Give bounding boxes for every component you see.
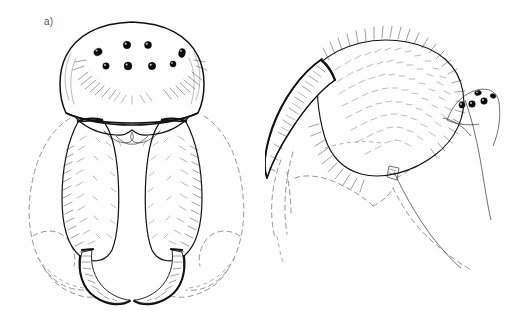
dashed-appendage-outline-left [29,118,110,297]
eye-group [93,41,186,70]
carapace-margin-lines [394,100,491,268]
panel-b-lateral-view: b) [265,0,520,318]
chelicera-lateral [309,26,466,192]
panel-b-drawing [265,0,520,318]
chelicera-dorsal-setae [323,26,466,158]
eye-group-lateral [447,89,500,146]
fang-lateral [265,59,335,178]
carapace-setae [73,60,207,104]
panel-a-label: a) [44,16,53,27]
eye-ame-right [145,42,152,49]
fang-right [134,249,184,304]
eye-ple-left [103,63,109,69]
fang-left [80,249,130,304]
chelicera-left [62,119,119,261]
chelicera-right [145,119,202,261]
carapace-outline [60,22,204,123]
eye-ame-left [123,41,130,48]
eye-pme-right [148,62,155,69]
eye-ale-left [93,47,103,57]
panel-a-drawing [0,0,265,318]
eye-lat-2 [469,101,476,108]
chelicera-left-setae [63,130,116,252]
dashed-body-outline [272,142,471,270]
chelicera-right-setae [148,130,201,252]
eye-ale-right [178,48,186,58]
eye-ple-right [170,61,176,67]
figure-plate: a) [0,0,520,318]
panel-a-frontal-view: a) [0,0,265,318]
eye-lat-3 [481,98,488,105]
chelicera-ventral-fringe [309,124,364,192]
eye-lat-1 [459,102,465,108]
eye-pme-left [124,62,132,70]
chelicera-surface-setae [335,48,451,154]
